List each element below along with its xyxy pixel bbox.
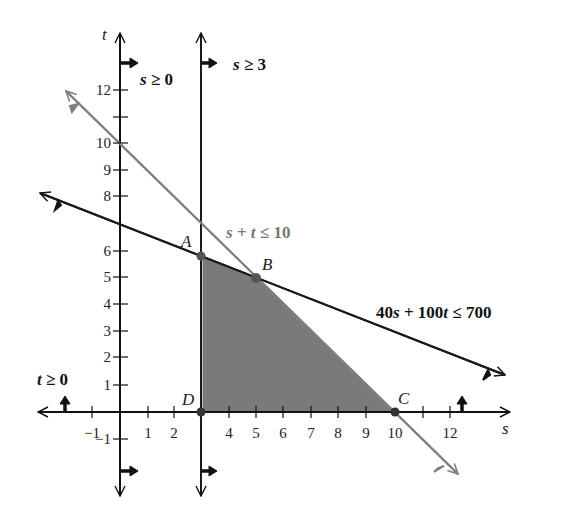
svg-text:8: 8 (104, 188, 112, 204)
budget-direction-arrow-left (55, 201, 61, 210)
vertex-c-label: C (398, 389, 410, 408)
svg-text:10: 10 (96, 135, 111, 151)
svg-text:6: 6 (279, 425, 287, 441)
sum-constraint-label: s + t ≤ 10 (225, 223, 290, 242)
svg-text:3: 3 (104, 323, 112, 339)
svg-text:5: 5 (252, 425, 260, 441)
svg-text:8: 8 (334, 425, 342, 441)
linear-programming-graph: −1 1 2 4 5 6 7 8 9 10 12 12 10 9 8 6 5 4… (0, 0, 568, 526)
sum-direction-arrow-bottom (434, 466, 444, 472)
svg-text:2: 2 (104, 349, 112, 365)
svg-text:9: 9 (362, 425, 370, 441)
svg-text:−1: −1 (95, 431, 111, 447)
vertex-a-label: A (180, 232, 192, 251)
s-tick-labels: −1 1 2 4 5 6 7 8 9 10 12 (84, 425, 457, 441)
vertex-d-label: D (181, 390, 195, 409)
budget-direction-arrow-right (483, 370, 490, 380)
t-axis-label: t (102, 25, 108, 44)
svg-text:4: 4 (225, 425, 233, 441)
vertex-b-label: B (262, 255, 273, 274)
svg-text:1: 1 (144, 425, 152, 441)
s-ge-0-label: s ≥ 0 (139, 70, 173, 89)
t-ge-0-label: t ≥ 0 (37, 370, 68, 389)
svg-text:10: 10 (388, 425, 403, 441)
svg-text:2: 2 (170, 425, 178, 441)
svg-text:4: 4 (104, 296, 112, 312)
svg-text:7: 7 (307, 425, 315, 441)
s-ge-0-direction-arrows (121, 58, 138, 476)
svg-text:9: 9 (104, 162, 112, 178)
feasible-region (203, 257, 396, 412)
svg-text:5: 5 (104, 269, 112, 285)
svg-text:12: 12 (443, 425, 458, 441)
budget-constraint-label: 40s + 100t ≤ 700 (376, 303, 491, 322)
vertex-b (251, 273, 261, 283)
sum-direction-arrow-top (70, 104, 78, 112)
svg-text:1: 1 (104, 377, 112, 393)
s-ge-3-label: s ≥ 3 (232, 55, 266, 74)
t-tick-labels: 12 10 9 8 6 5 4 3 2 1 −1 (95, 82, 111, 447)
svg-text:6: 6 (104, 243, 112, 259)
svg-text:12: 12 (96, 82, 111, 98)
vertex-d (197, 408, 206, 417)
s-axis-label: s (502, 419, 509, 438)
vertex-a (197, 252, 206, 261)
vertex-c (391, 408, 400, 417)
